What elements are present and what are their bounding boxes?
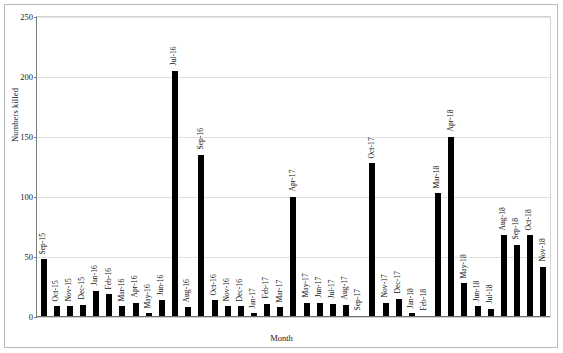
bar-category-label: Nov-16 — [223, 278, 231, 302]
y-tick-label: 250 — [3, 12, 37, 22]
y-tick-label: 100 — [3, 192, 37, 202]
bar-category-label: Dec-16 — [236, 279, 244, 302]
bar-item: Oct-16 — [208, 17, 221, 317]
bar-item: Jun-18 — [471, 17, 484, 317]
bar-item: Jun-16 — [155, 17, 168, 317]
bar — [448, 137, 454, 317]
bar-item: Feb-18 — [418, 17, 431, 317]
bar-category-label: Oct-17 — [368, 137, 376, 158]
bar-item: Nov-18 — [537, 17, 550, 317]
bar-category-label: Mar-16 — [118, 278, 126, 301]
bar — [369, 163, 375, 317]
bar — [396, 299, 402, 317]
y-tick-label: 0 — [3, 312, 37, 322]
bar-item: Nov-16 — [221, 17, 234, 317]
bar-item: Jun-17 — [313, 17, 326, 317]
bar-category-label: Mar-18 — [434, 165, 442, 188]
bar-item: Oct-15 — [50, 17, 63, 317]
bar-item: Jan-17 — [247, 17, 260, 317]
bar — [501, 235, 507, 317]
bar — [41, 259, 47, 317]
bar-category-label: Feb-18 — [421, 289, 429, 311]
bar — [435, 193, 441, 317]
bar — [106, 294, 112, 317]
bar-item: Dec-17 — [392, 17, 405, 317]
bar-category-label: Sep-18 — [513, 218, 521, 240]
bar — [93, 291, 99, 317]
bar-item: Jul-18 — [484, 17, 497, 317]
bar-category-label: Jun-18 — [473, 280, 481, 301]
y-tick-label: 200 — [3, 72, 37, 82]
bar-category-label: Aug-17 — [342, 276, 350, 300]
bar-category-label: Jan-16 — [92, 265, 100, 286]
y-tick-label: 150 — [3, 132, 37, 142]
bar-item: Oct-18 — [524, 17, 537, 317]
bar-category-label: Sep-17 — [355, 289, 363, 311]
bar-category-label: Jul-16 — [171, 47, 179, 66]
bar — [304, 303, 310, 317]
bar-item: Nov-17 — [379, 17, 392, 317]
bar-category-label: Oct-15 — [52, 280, 60, 301]
x-axis-title: Month — [0, 333, 563, 343]
bar — [172, 71, 178, 317]
bar-item: Sep-17 — [353, 17, 366, 317]
bar-category-label: Sep-16 — [197, 128, 205, 150]
bar-category-label: Apr-17 — [289, 170, 297, 192]
bar-item: May-16 — [142, 17, 155, 317]
bar-category-label: Feb-16 — [105, 267, 113, 289]
bar — [461, 283, 467, 317]
bar-item: Dec-16 — [234, 17, 247, 317]
plot-area: 050100150200250 Sep-15Oct-15Nov-15Dec-15… — [36, 16, 551, 318]
bar-item: Apr-17 — [287, 17, 300, 317]
bar-category-label: May-17 — [302, 273, 310, 297]
bar — [290, 197, 296, 317]
bar — [527, 235, 533, 317]
bar-category-label: Oct-18 — [526, 209, 534, 230]
bar-category-label: Nov-15 — [65, 278, 73, 302]
y-tick-mark — [34, 317, 37, 318]
bar-item: Jan-16 — [90, 17, 103, 317]
bar — [133, 303, 139, 317]
bar-category-label: Jan-18 — [407, 288, 415, 309]
bar-category-label: Apr-16 — [131, 276, 139, 298]
bar — [159, 300, 165, 317]
bar-item: Jul-17 — [326, 17, 339, 317]
bar-item: Jan-18 — [405, 17, 418, 317]
bar — [514, 245, 520, 317]
bar-category-label: May-18 — [460, 254, 468, 278]
bar-category-label: Aug-16 — [184, 279, 192, 303]
bar-item: Apr-18 — [445, 17, 458, 317]
bar-item: Sep-18 — [511, 17, 524, 317]
x-axis-line — [37, 316, 550, 317]
bar-item: Mar-16 — [116, 17, 129, 317]
bar-item: Oct-17 — [366, 17, 379, 317]
y-tick-label: 50 — [3, 252, 37, 262]
bar-item: Jul-16 — [169, 17, 182, 317]
bar-item: Apr-16 — [129, 17, 142, 317]
bar-item: May-18 — [458, 17, 471, 317]
bar-category-label: Jan-17 — [250, 288, 258, 309]
bar-item: Nov-15 — [63, 17, 76, 317]
bar-category-label: Nov-18 — [539, 238, 547, 262]
bar-category-label: Apr-18 — [447, 110, 455, 132]
bar-category-label: Dec-17 — [394, 271, 402, 294]
bar-item: Sep-16 — [195, 17, 208, 317]
bar-category-label: Feb-17 — [263, 277, 271, 299]
bar-item: Feb-17 — [261, 17, 274, 317]
bar — [198, 155, 204, 317]
bar-category-label: Jun-16 — [158, 274, 166, 295]
bar-item: Dec-15 — [76, 17, 89, 317]
bar-item: Sep-15 — [37, 17, 50, 317]
bar-category-label: Jul-17 — [329, 280, 337, 299]
bar — [383, 303, 389, 317]
bar — [540, 267, 546, 317]
bar-category-label: Oct-16 — [210, 274, 218, 295]
bar-category-label: May-16 — [144, 284, 152, 308]
chart-figure: Numbers killed 050100150200250 Sep-15Oct… — [0, 0, 563, 353]
bar-item: May-17 — [300, 17, 313, 317]
bar-item: Aug-17 — [340, 17, 353, 317]
bar-category-label: Mar-17 — [276, 279, 284, 302]
bar-item: Feb-16 — [103, 17, 116, 317]
bar-item: Aug-18 — [497, 17, 510, 317]
bar-category-label: Nov-17 — [381, 274, 389, 298]
